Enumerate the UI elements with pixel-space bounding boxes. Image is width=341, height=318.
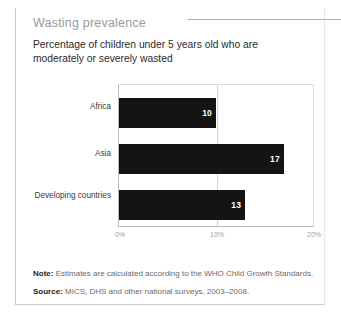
note-label: Note: bbox=[33, 269, 53, 278]
bar-row-africa: 10 bbox=[119, 98, 313, 128]
xtick-label-20: 20% bbox=[307, 231, 321, 238]
source-text: MICS, DHS and other national surveys, 20… bbox=[65, 287, 249, 296]
plot-area: 10 17 13 bbox=[118, 84, 314, 227]
xtick-label-10: 10% bbox=[210, 231, 224, 238]
figure-subtitle: Percentage of children under 5 years old… bbox=[33, 38, 295, 66]
xtick-label-0: 0% bbox=[115, 231, 125, 238]
bar-asia: 17 bbox=[119, 144, 284, 174]
bar-chart: Africa Asia Developing countries 10 17 bbox=[33, 80, 315, 250]
note-footnote: Note: Estimates are calculated according… bbox=[33, 269, 313, 278]
bar-value-asia: 17 bbox=[270, 154, 280, 164]
bar-developing-countries: 13 bbox=[119, 190, 245, 220]
category-label-africa: Africa bbox=[33, 102, 111, 112]
note-text: Estimates are calculated according to th… bbox=[56, 269, 313, 278]
source-footnote: Source: MICS, DHS and other national sur… bbox=[33, 287, 249, 296]
category-label-asia: Asia bbox=[33, 149, 111, 159]
bar-africa: 10 bbox=[119, 98, 216, 128]
source-label: Source: bbox=[33, 287, 63, 296]
figure-card: Wasting prevalence Percentage of childre… bbox=[15, 8, 325, 305]
figure-title: Wasting prevalence bbox=[33, 16, 146, 30]
bar-value-africa: 10 bbox=[202, 108, 212, 118]
bar-row-asia: 17 bbox=[119, 144, 313, 174]
bar-row-developing-countries: 13 bbox=[119, 190, 313, 220]
bar-value-developing-countries: 13 bbox=[231, 200, 241, 210]
title-rule bbox=[188, 19, 341, 20]
category-label-developing-countries: Developing countries bbox=[33, 191, 111, 201]
